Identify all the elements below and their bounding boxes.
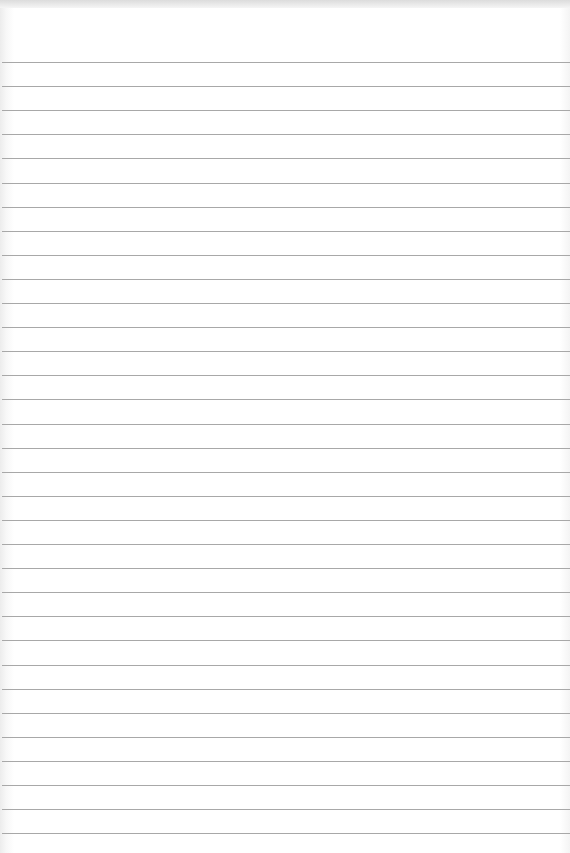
ruled-line xyxy=(2,399,570,400)
ruled-line xyxy=(2,327,570,328)
ruled-line xyxy=(2,231,570,232)
ruled-line xyxy=(2,375,570,376)
ruled-line xyxy=(2,183,570,184)
ruled-line xyxy=(2,640,570,641)
ruled-line xyxy=(2,351,570,352)
ruled-line xyxy=(2,303,570,304)
ruled-line xyxy=(2,207,570,208)
ruled-line xyxy=(2,737,570,738)
ruled-line xyxy=(2,448,570,449)
ruled-line xyxy=(2,568,570,569)
ruled-line xyxy=(2,616,570,617)
ruled-line xyxy=(2,279,570,280)
ruled-line xyxy=(2,544,570,545)
ruled-line xyxy=(2,785,570,786)
ruled-line xyxy=(2,424,570,425)
top-edge-shadow xyxy=(0,0,570,8)
ruled-line xyxy=(2,62,570,63)
ruled-line xyxy=(2,761,570,762)
ruled-line xyxy=(2,592,570,593)
ruled-line xyxy=(2,809,570,810)
lined-paper-sheet xyxy=(0,0,570,853)
ruled-line xyxy=(2,833,570,834)
ruled-line xyxy=(2,472,570,473)
ruled-line xyxy=(2,134,570,135)
ruled-line xyxy=(2,520,570,521)
ruled-line xyxy=(2,496,570,497)
ruled-line xyxy=(2,255,570,256)
ruled-line xyxy=(2,713,570,714)
ruled-line xyxy=(2,158,570,159)
ruled-line xyxy=(2,110,570,111)
ruled-line xyxy=(2,665,570,666)
ruled-line xyxy=(2,86,570,87)
ruled-line xyxy=(2,689,570,690)
